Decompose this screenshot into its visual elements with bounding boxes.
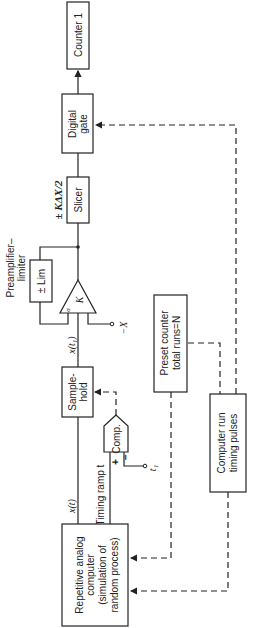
digital-gate-label-1: Digital bbox=[67, 110, 78, 138]
timing-pulses-label-1: Computer run bbox=[216, 412, 227, 473]
digital-gate-label-2: gate bbox=[78, 114, 89, 134]
preamplifier-limiter: Preamplifier– limiter ± Lim K σ −X bbox=[5, 238, 129, 334]
limiter-label: ± Lim bbox=[36, 269, 47, 293]
sample-hold-block: Sample- hold bbox=[62, 367, 93, 417]
slicer-threshold-label: ± KΔX/2 bbox=[52, 180, 64, 219]
counter-1-block: Counter 1 bbox=[67, 2, 89, 69]
t1-label: t₁ bbox=[147, 465, 158, 471]
comparator-minus: − bbox=[120, 454, 131, 460]
sample-hold-label-2: hold bbox=[78, 383, 89, 402]
preamp-title-2: limiter bbox=[16, 254, 27, 281]
analog-computer-label-1: Repetitive analog bbox=[74, 536, 85, 613]
analog-computer-label-4: random process) bbox=[109, 537, 120, 612]
timing-to-computer-line bbox=[131, 492, 228, 591]
slicer-label: Slicer bbox=[73, 187, 84, 213]
comparator-label: Comp. bbox=[111, 424, 122, 453]
comp-to-sh-line bbox=[95, 392, 116, 415]
gain-k-label: K bbox=[74, 295, 85, 304]
x-t1-signal-label: x(t₁) bbox=[66, 336, 78, 355]
preamp-title-1: Preamplifier– bbox=[5, 238, 16, 297]
analog-computer-label-3: (simulation of bbox=[97, 545, 108, 605]
timing-to-preset-line bbox=[188, 343, 220, 394]
timing-pulses-block: Computer run timing pulses bbox=[210, 394, 246, 492]
minus-x-label: −X bbox=[118, 321, 129, 335]
sample-hold-label-1: Sample- bbox=[67, 373, 78, 410]
timing-pulses-label-2: timing pulses bbox=[228, 414, 239, 472]
block-diagram: Counter 1 Digital gate Slicer ± KΔX/2 Pr… bbox=[0, 0, 256, 628]
summing-input-mark: σ bbox=[64, 308, 72, 312]
analog-computer-label-2: computer bbox=[85, 553, 96, 595]
digital-gate-block: Digital gate bbox=[62, 94, 93, 153]
comparator-block: Comp. + − t₁ bbox=[104, 415, 158, 471]
x-t-signal-label: x(t) bbox=[66, 498, 78, 514]
amplifier-k-triangle bbox=[60, 280, 96, 313]
preset-to-computer-line bbox=[131, 392, 171, 558]
slicer-block: Slicer ± KΔX/2 bbox=[52, 177, 89, 223]
ref-input-terminal bbox=[110, 322, 114, 326]
preset-counter-label-1: Preset counter bbox=[159, 310, 170, 376]
counter-1-label: Counter 1 bbox=[73, 13, 84, 57]
limiter-feedback-top bbox=[40, 247, 78, 260]
preset-counter-label-2: total runs=N bbox=[171, 316, 182, 370]
ref-input-line bbox=[88, 313, 110, 324]
preset-counter-block: Preset counter total runs=N bbox=[154, 295, 187, 392]
analog-computer-block: Repetitive analog computer (simulation o… bbox=[62, 524, 128, 626]
timing-ramp-label: Timing ramp t bbox=[95, 464, 106, 525]
